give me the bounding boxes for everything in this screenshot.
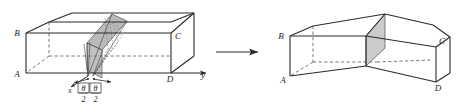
angle-label-1: θ 2: [78, 83, 89, 104]
figure-canvas: θ 2 θ 2 B A C D y x: [0, 0, 462, 107]
left-angle-arrows: [74, 79, 111, 83]
left-vertex-label-d: D: [166, 74, 174, 84]
right-diagram-group: B A C D: [278, 14, 450, 93]
angle-label-2-numerator: θ: [94, 84, 98, 93]
left-diagram-group: θ 2 θ 2 B A C D y x: [13, 13, 206, 104]
left-axis-label-y: y: [200, 70, 205, 80]
left-cutting-plane: [87, 14, 127, 78]
right-vertex-label-d: D: [434, 83, 442, 93]
left-vertex-label-c: C: [175, 31, 182, 41]
angle-label-2: θ 2: [90, 83, 101, 104]
left-vertex-label-b: B: [14, 28, 20, 38]
angle-apex-dot-left: [87, 78, 89, 80]
left-axis-label-x: x: [67, 86, 72, 95]
right-fold-face: [366, 14, 385, 66]
left-vertex-label-a: A: [13, 69, 20, 79]
angle-label-1-denominator: 2: [82, 95, 86, 104]
angle-label-2-denominator: 2: [94, 95, 98, 104]
right-box-hidden-edges: [290, 26, 433, 76]
left-box-edges: [26, 13, 194, 73]
right-vertex-label-c: C: [439, 36, 446, 46]
right-vertex-label-a: A: [279, 75, 286, 85]
geometry-figure: θ 2 θ 2 B A C D y x: [0, 0, 462, 107]
angle-label-1-numerator: θ: [82, 84, 86, 93]
right-vertex-label-b: B: [278, 31, 284, 41]
angle-apex-dot-right: [93, 78, 95, 80]
